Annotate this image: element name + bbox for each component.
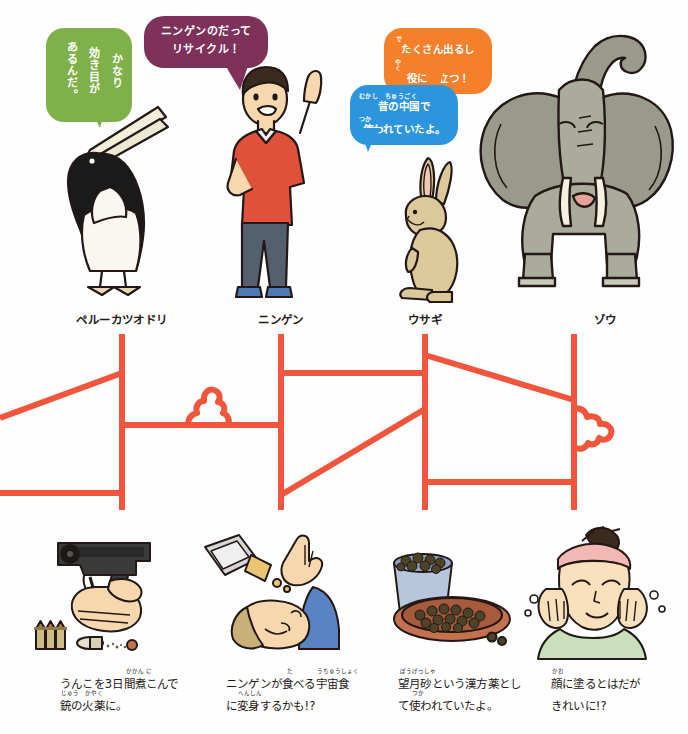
use-illustration-gunpowder xyxy=(24,525,184,660)
use-caption-kampo: ぼうげっしゃ望月砂という漢方薬とし つかて使われていたよ。 xyxy=(398,672,568,716)
use-illustration-kampo xyxy=(368,525,528,660)
use-illustration-space-food xyxy=(195,525,355,660)
speech-bubble-rabbit: むかし ちゅうごく昔の中国で つか使われていたよ。 xyxy=(350,85,458,145)
animal-label-elephant: ゾウ xyxy=(505,311,688,327)
poop-motif-right xyxy=(574,408,611,449)
use-caption-kampo-line2: つかて使われていたよ。 xyxy=(398,694,568,716)
speech-bubble-human-line1: ニンゲンのだって xyxy=(153,25,259,40)
use-caption-skincare-line2: きれいに!? xyxy=(551,694,688,716)
animal-label-rabbit: ウサギ xyxy=(325,311,525,327)
human-illustration xyxy=(208,55,328,305)
connector-diagram xyxy=(0,330,688,510)
pelican-illustration xyxy=(40,95,220,300)
illustration-page: かなり 効き目が あるんだ。 ニンゲンのだって リサイクル！ でたくさん出るし xyxy=(0,0,688,734)
poop-motif-left xyxy=(188,390,229,425)
use-caption-space-food: た うちゅうしょくニンゲンが食べる宇宙食 へんしんに変身するかも!? xyxy=(226,672,396,716)
use-caption-gunpowder-line2: じゅう かやく銃の火薬に。 xyxy=(60,694,220,716)
use-caption-gunpowder: かかん にうんこを3日間煮こんで じゅう かやく銃の火薬に。 xyxy=(60,672,220,716)
use-illustration-skincare xyxy=(520,525,680,660)
speech-bubble-rabbit-line1: むかし ちゅうごく昔の中国で xyxy=(358,93,450,113)
use-caption-skincare: かお顔に塗るとはだが きれいに!? xyxy=(551,672,688,716)
use-caption-skincare-line1: かお顔に塗るとはだが xyxy=(551,672,688,694)
elephant-illustration xyxy=(455,28,685,298)
use-caption-space-food-line2: へんしんに変身するかも!? xyxy=(226,694,396,716)
